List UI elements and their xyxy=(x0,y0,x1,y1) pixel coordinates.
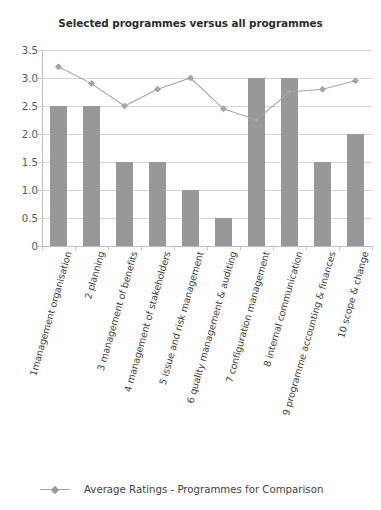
y-axis-tick-label: 3.5 xyxy=(4,45,38,56)
line-diamond-marker-icon xyxy=(40,485,70,495)
bar xyxy=(116,162,133,246)
x-axis-category-label-text: 1management organisation xyxy=(27,250,73,377)
chart-container: Selected programmes versus all programme… xyxy=(0,0,381,510)
y-axis-tick-label: 3.0 xyxy=(4,73,38,84)
y-axis-tick-label: 2.5 xyxy=(4,101,38,112)
gridline xyxy=(42,78,372,79)
legend: Average Ratings - Programmes for Compari… xyxy=(0,484,381,495)
chart-title: Selected programmes versus all programme… xyxy=(0,17,381,29)
legend-entry-label: Average Ratings - Programmes for Compari… xyxy=(84,484,323,495)
bar xyxy=(50,106,67,246)
y-axis-tick-label: 2.0 xyxy=(4,129,38,140)
y-axis-tick-label: 1.5 xyxy=(4,157,38,168)
y-axis-tick-label: 1.0 xyxy=(4,185,38,196)
x-axis-category-labels: 1management organisation2 planning3 mana… xyxy=(0,250,381,460)
x-axis-category-label-text: 10 scope & change xyxy=(335,250,370,339)
x-axis-category-label-text: 2 planning xyxy=(82,250,106,300)
gridline xyxy=(42,50,372,51)
y-axis-tick-label: 0.5 xyxy=(4,213,38,224)
legend-diamond-marker xyxy=(51,485,59,493)
